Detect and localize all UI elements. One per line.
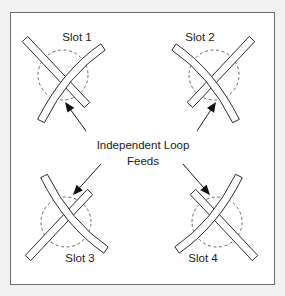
figure-canvas: Slot 1Slot 2Slot 3Slot 4 Independent Loo… bbox=[0, 0, 285, 296]
slot-label-3: Slot 3 bbox=[65, 252, 94, 264]
slot-label-2: Slot 2 bbox=[185, 31, 214, 43]
callout-line-1: Independent Loop bbox=[97, 139, 190, 151]
figure-root: Slot 1Slot 2Slot 3Slot 4 Independent Loo… bbox=[0, 0, 285, 296]
slot-label-1: Slot 1 bbox=[62, 31, 91, 43]
callout-line-2: Feeds bbox=[127, 155, 159, 167]
slot-label-4: Slot 4 bbox=[188, 252, 218, 264]
